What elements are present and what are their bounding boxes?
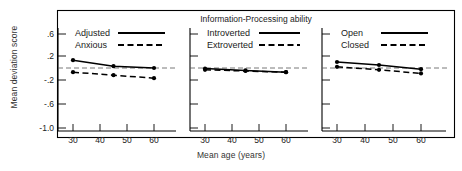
series-extroverted-point	[284, 70, 288, 74]
panel1-xtick-label-1: 40	[95, 135, 105, 145]
panel-introverted-extroverted: 30 40 50 60 Introverted Extroverted	[190, 28, 308, 145]
series-adjusted-point	[111, 64, 115, 68]
legend-label-adjusted: Adjusted	[75, 28, 110, 38]
series-extroverted-point	[243, 69, 247, 73]
series-anxious-point	[152, 76, 156, 80]
series-closed-point	[377, 68, 381, 72]
panel-adjusted-anxious: .6 .2 -.2 -.6 -1.0 30 40 50 60	[39, 28, 176, 145]
panel3-xtick-label-1: 40	[360, 135, 370, 145]
legend-label-closed: Closed	[341, 40, 369, 50]
panel3-xtick-label-2: 50	[388, 135, 398, 145]
legend-label-extroverted: Extroverted	[207, 40, 253, 50]
panel2-xtick-label-0: 30	[200, 135, 210, 145]
panel2-xtick-label-3: 60	[281, 135, 291, 145]
series-open-point	[419, 67, 423, 71]
panel1-xtick-label-3: 60	[149, 135, 159, 145]
panel2-xtick-label-1: 40	[227, 135, 237, 145]
panel1-xtick-label-2: 50	[122, 135, 132, 145]
y-axis-title: Mean deviation score	[9, 7, 19, 127]
chart-title: Information-Processing ability	[200, 14, 312, 24]
panel-open-closed: 30 40 50 60 Open Closed	[322, 28, 448, 145]
series-adjusted-point	[152, 66, 156, 70]
chart-figure: Mean deviation score Mean age (years) In…	[0, 0, 462, 171]
ytick-label-2: -.2	[44, 75, 54, 85]
ytick-label-1: .2	[47, 51, 54, 61]
series-closed-point	[419, 71, 423, 75]
series-anxious-point	[111, 73, 115, 77]
panel1-xtick-label-0: 30	[68, 135, 78, 145]
series-adjusted-point	[71, 58, 75, 62]
panel3-xtick-label-0: 30	[332, 135, 342, 145]
panel3-xtick-label-3: 60	[416, 135, 426, 145]
legend-label-anxious: Anxious	[75, 40, 108, 50]
ytick-label-4: -1.0	[39, 123, 54, 133]
legend-label-open: Open	[341, 28, 363, 38]
legend-label-introverted: Introverted	[207, 28, 250, 38]
ytick-label-0: .6	[47, 29, 54, 39]
x-axis-title: Mean age (years)	[0, 150, 462, 160]
series-closed-point	[335, 65, 339, 69]
series-open-point	[377, 63, 381, 67]
series-extroverted-point	[203, 68, 207, 72]
series-anxious-point	[71, 70, 75, 74]
series-open-point	[335, 60, 339, 64]
chart-frame	[58, 11, 455, 138]
chart-svg: Information-Processing ability .6 .2 -.2…	[0, 0, 462, 171]
panel2-xtick-label-2: 50	[254, 135, 264, 145]
ytick-label-3: -.6	[44, 99, 54, 109]
